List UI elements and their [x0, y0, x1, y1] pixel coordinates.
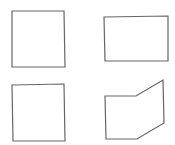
background — [0, 0, 175, 145]
shapes-diagram — [0, 0, 175, 145]
